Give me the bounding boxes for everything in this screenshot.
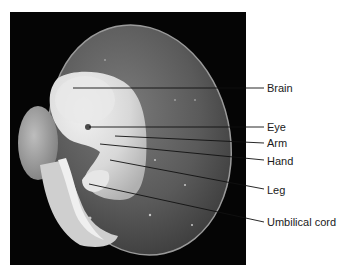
embryo-head — [55, 76, 115, 124]
label-eye: Eye — [267, 121, 286, 133]
label-arm: Arm — [267, 137, 287, 149]
labeled-embryo-figure — [0, 0, 342, 274]
label-brain: Brain — [267, 82, 293, 94]
label-hand: Hand — [267, 155, 293, 167]
label-leg: Leg — [267, 184, 285, 196]
label-umbilical-cord: Umbilical cord — [267, 216, 336, 228]
